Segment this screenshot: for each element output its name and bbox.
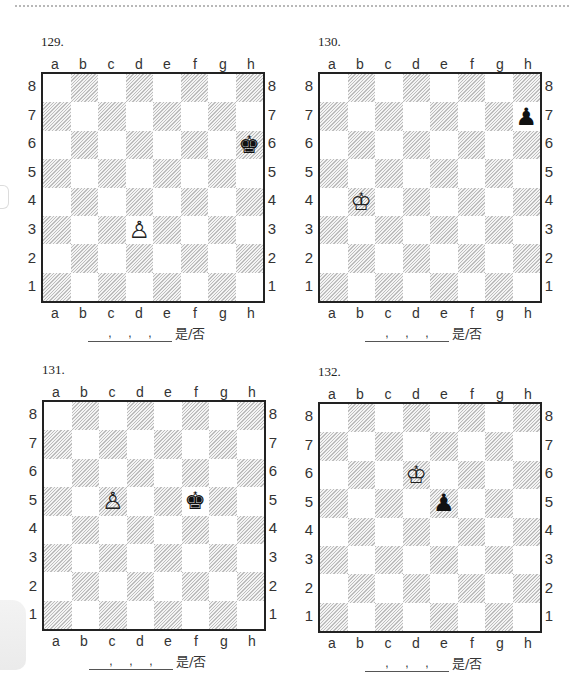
square-b3[interactable] (71, 216, 99, 244)
square-e3[interactable] (153, 216, 181, 244)
square-d3[interactable] (127, 544, 155, 572)
square-f1[interactable] (458, 273, 486, 301)
black-pawn-icon[interactable]: ♟ (515, 105, 537, 129)
square-g7[interactable] (485, 102, 513, 130)
square-c2[interactable] (375, 574, 403, 602)
square-g5[interactable] (485, 489, 513, 517)
square-f3[interactable] (182, 544, 210, 572)
square-b8[interactable] (348, 404, 376, 432)
square-a4[interactable] (320, 518, 348, 546)
square-b1[interactable] (348, 273, 376, 301)
square-f8[interactable] (182, 402, 210, 430)
square-e8[interactable] (153, 74, 181, 102)
square-b5[interactable] (348, 159, 376, 187)
square-c2[interactable] (98, 244, 126, 272)
square-g8[interactable] (485, 404, 513, 432)
square-e6[interactable] (430, 131, 458, 159)
square-b2[interactable] (348, 574, 376, 602)
square-f6[interactable] (458, 131, 486, 159)
square-b2[interactable] (72, 572, 100, 600)
square-h7[interactable] (236, 102, 264, 130)
square-b5[interactable] (71, 159, 99, 187)
square-c5[interactable] (375, 159, 403, 187)
square-e5[interactable] (154, 487, 182, 515)
square-h2[interactable] (513, 574, 541, 602)
square-h2[interactable] (236, 244, 264, 272)
square-d2[interactable] (403, 574, 431, 602)
square-g3[interactable] (209, 544, 237, 572)
square-a4[interactable] (44, 516, 72, 544)
square-c6[interactable] (375, 131, 403, 159)
square-e6[interactable] (154, 459, 182, 487)
square-g4[interactable] (209, 516, 237, 544)
square-c2[interactable] (99, 572, 127, 600)
square-c1[interactable] (99, 601, 127, 629)
square-c4[interactable] (99, 516, 127, 544)
square-c8[interactable] (375, 74, 403, 102)
square-b3[interactable] (72, 544, 100, 572)
square-d3[interactable] (403, 216, 431, 244)
square-g2[interactable] (209, 572, 237, 600)
square-d5[interactable] (127, 487, 155, 515)
square-f8[interactable] (458, 74, 486, 102)
square-f7[interactable] (182, 430, 210, 458)
square-g8[interactable] (485, 74, 513, 102)
square-g1[interactable] (209, 601, 237, 629)
square-a1[interactable] (320, 273, 348, 301)
square-f5[interactable] (181, 159, 209, 187)
square-a7[interactable] (320, 432, 348, 460)
square-d5[interactable] (403, 159, 431, 187)
square-e1[interactable] (153, 273, 181, 301)
black-king-icon[interactable]: ♚ (238, 133, 260, 157)
square-c3[interactable] (99, 544, 127, 572)
square-e6[interactable] (153, 131, 181, 159)
square-h3[interactable] (237, 544, 265, 572)
square-a8[interactable] (320, 74, 348, 102)
square-f5[interactable] (458, 489, 486, 517)
square-g1[interactable] (485, 603, 513, 631)
yes-no-choice[interactable]: 是/否 (452, 653, 482, 672)
square-b3[interactable] (348, 546, 376, 574)
square-e7[interactable] (153, 102, 181, 130)
square-f4[interactable] (458, 188, 486, 216)
square-f8[interactable] (181, 74, 209, 102)
square-h2[interactable] (237, 572, 265, 600)
white-pawn-icon[interactable]: ♙ (102, 489, 124, 513)
square-e2[interactable] (153, 244, 181, 272)
square-d2[interactable] (126, 244, 154, 272)
square-a8[interactable] (320, 404, 348, 432)
square-e5[interactable]: ♟ (430, 489, 458, 517)
square-c8[interactable] (98, 74, 126, 102)
square-d5[interactable] (403, 489, 431, 517)
square-d1[interactable] (126, 273, 154, 301)
square-d3[interactable] (403, 546, 431, 574)
square-f2[interactable] (458, 574, 486, 602)
square-h1[interactable] (237, 601, 265, 629)
square-d6[interactable]: ♔ (403, 461, 431, 489)
square-h6[interactable] (513, 131, 541, 159)
square-g6[interactable] (485, 461, 513, 489)
square-d2[interactable] (127, 572, 155, 600)
yes-no-choice[interactable]: 是/否 (175, 323, 205, 342)
square-d8[interactable] (403, 74, 431, 102)
square-c7[interactable] (375, 432, 403, 460)
square-b4[interactable] (71, 188, 99, 216)
square-g3[interactable] (485, 216, 513, 244)
square-d4[interactable] (127, 516, 155, 544)
square-a6[interactable] (43, 131, 71, 159)
square-h1[interactable] (513, 603, 541, 631)
square-d4[interactable] (403, 518, 431, 546)
square-b8[interactable] (348, 74, 376, 102)
square-f1[interactable] (458, 603, 486, 631)
square-f4[interactable] (182, 516, 210, 544)
square-h8[interactable] (513, 404, 541, 432)
square-d6[interactable] (127, 459, 155, 487)
square-d3[interactable]: ♙ (126, 216, 154, 244)
square-h5[interactable] (513, 489, 541, 517)
square-g2[interactable] (208, 244, 236, 272)
square-a6[interactable] (44, 459, 72, 487)
square-b8[interactable] (71, 74, 99, 102)
white-king-icon[interactable]: ♔ (350, 190, 372, 214)
square-f3[interactable] (458, 216, 486, 244)
square-b4[interactable] (348, 518, 376, 546)
